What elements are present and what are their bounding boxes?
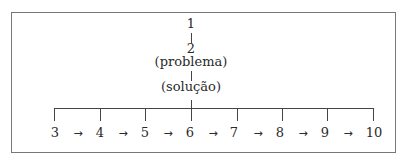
tick-3 — [54, 108, 55, 121]
arrow-right-icon: → — [298, 127, 307, 140]
node-4: 4 — [96, 126, 104, 140]
node-10: 10 — [366, 126, 383, 140]
arrow-right-icon: → — [73, 127, 82, 140]
problem-label: (problema) — [155, 55, 228, 69]
node-3: 3 — [51, 126, 59, 140]
arrow-right-icon: → — [163, 127, 172, 140]
tick-8 — [282, 108, 283, 121]
solution-label: (solução) — [161, 80, 221, 94]
tick-5 — [145, 108, 146, 121]
tick-7 — [237, 108, 238, 121]
horizontal-bar — [54, 108, 374, 109]
tick-4 — [100, 108, 101, 121]
node-7: 7 — [230, 126, 238, 140]
tick-10 — [373, 108, 374, 121]
node-6: 6 — [186, 126, 194, 140]
node-8: 8 — [276, 126, 284, 140]
node-1: 1 — [187, 17, 195, 31]
connector-solution-bar — [191, 100, 192, 121]
tick-9 — [327, 108, 328, 121]
node-5: 5 — [141, 126, 149, 140]
node-9: 9 — [321, 126, 329, 140]
arrow-right-icon: → — [208, 127, 217, 140]
arrow-right-icon: → — [118, 127, 127, 140]
arrow-right-icon: → — [253, 127, 262, 140]
arrow-right-icon: → — [343, 127, 352, 140]
